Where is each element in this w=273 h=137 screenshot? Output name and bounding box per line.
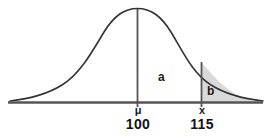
axis-tick-mean-value: 100 [108,117,168,132]
axis-tick-mean-symbol: μ [108,105,168,117]
region-label-a: a [158,71,165,83]
axis-tick-mean: μ 100 [108,105,168,131]
axis-tick-cutoff-value: 115 [172,117,232,132]
axis-tick-cutoff-symbol: x [172,105,232,117]
axis-tick-cutoff: x 115 [172,105,232,131]
normal-distribution-figure: a b μ 100 x 115 [0,0,273,137]
region-label-b: b [207,85,214,97]
